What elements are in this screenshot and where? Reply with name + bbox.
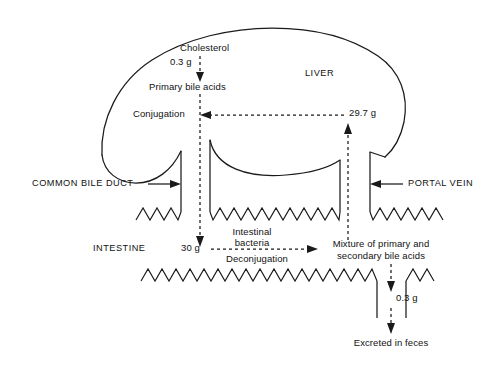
label-conjugation: Conjugation	[133, 109, 185, 120]
label-mixture-line2: secondary bile acids	[318, 251, 444, 262]
label-cholesterol-amount: 0.3 g	[170, 57, 192, 68]
label-intestine: INTESTINE	[93, 243, 145, 254]
arrow-common-bile-duct	[170, 180, 181, 188]
liver-middle-underside	[210, 140, 340, 176]
label-portal-vein: PORTAL VEIN	[408, 178, 473, 189]
arrow-excretion-upper	[387, 281, 395, 292]
label-mixture-line1: Mixture of primary and	[318, 239, 444, 250]
intestine-zigzag-left	[136, 208, 181, 220]
arrow-portal-reabsorption	[344, 123, 352, 134]
label-primary-bile-acids: Primary bile acids	[149, 82, 226, 93]
arrow-return-to-conjugation	[200, 111, 211, 119]
intestine-zigzag-right	[370, 208, 443, 220]
label-returned-amount: 29.7 g	[349, 108, 376, 119]
liver-outline-top	[102, 28, 405, 157]
intestine-zigzag-lower-right	[406, 269, 434, 281]
intestine-zigzag-lower	[141, 269, 377, 281]
label-common-bile-duct: COMMON BILE DUCT	[32, 178, 133, 189]
bile-acid-circulation-diagram: Cholesterol 0.3 g Primary bile acids Con…	[0, 0, 486, 365]
label-secreted-amount: 30 g	[181, 243, 200, 254]
label-excreted-in-feces: Excreted in feces	[333, 338, 449, 349]
arrow-excretion-lower	[387, 323, 395, 334]
arrow-portal-vein	[370, 180, 381, 188]
label-excreted-amount: 0.3 g	[396, 293, 418, 304]
liver-right-lobe-edge	[370, 152, 385, 157]
label-deconjugation: Deconjugation	[212, 254, 302, 265]
label-intestinal-bacteria-line2: bacteria	[222, 238, 282, 249]
intestine-zigzag-middle	[210, 208, 340, 220]
arrow-deconjugation	[307, 245, 318, 253]
label-cholesterol: Cholesterol	[180, 43, 229, 54]
label-liver: LIVER	[305, 68, 334, 79]
